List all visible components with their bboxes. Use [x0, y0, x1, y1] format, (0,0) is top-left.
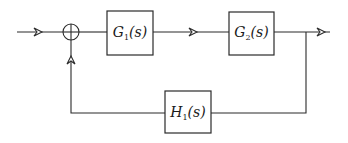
block-g1: G1(s) [107, 11, 153, 55]
block-diagram: G1(s) G2(s) H1(s) [0, 0, 348, 143]
svg-text:G2(s): G2(s) [234, 24, 268, 42]
block-h1: H1(s) [165, 91, 211, 133]
block-g2: G2(s) [229, 12, 274, 55]
svg-text:G1(s): G1(s) [113, 24, 147, 42]
svg-text:H1(s): H1(s) [169, 104, 205, 122]
summing-junction [63, 24, 79, 40]
